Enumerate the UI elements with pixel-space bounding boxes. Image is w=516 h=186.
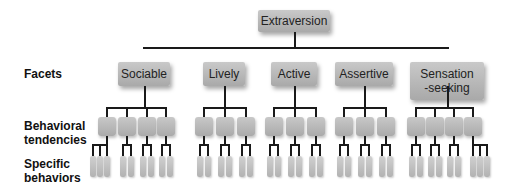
facet-node-assertive: Assertive bbox=[335, 62, 393, 86]
specific-behavior-node bbox=[484, 156, 490, 177]
facet-node-active: Active bbox=[271, 62, 317, 86]
connector-line bbox=[142, 144, 144, 156]
specific-behavior-node bbox=[247, 156, 253, 177]
connector-line bbox=[430, 144, 432, 156]
connector-line bbox=[144, 86, 146, 108]
connector-line bbox=[319, 144, 321, 156]
connector-line bbox=[415, 107, 474, 109]
specific-behavior-node bbox=[97, 156, 103, 177]
specific-behavior-node bbox=[167, 156, 173, 177]
connector-line bbox=[228, 144, 230, 156]
specific-behavior-node bbox=[226, 156, 232, 177]
connector-line bbox=[169, 144, 171, 156]
behavioral-tendency-node bbox=[195, 117, 213, 136]
connector-line bbox=[277, 144, 279, 156]
behavioral-tendency-node bbox=[118, 117, 136, 136]
connector-line bbox=[486, 144, 488, 156]
connector-line bbox=[106, 107, 167, 109]
connector-line bbox=[241, 144, 243, 156]
connector-line bbox=[161, 144, 163, 156]
specific-behavior-node bbox=[428, 156, 434, 177]
row-label-line: Behavioral bbox=[24, 119, 87, 133]
row-label-specific-behaviors: Specific behaviors bbox=[24, 157, 81, 185]
connector-line bbox=[447, 86, 449, 108]
behavioral-tendency-node bbox=[426, 117, 444, 136]
specific-behavior-node bbox=[159, 156, 165, 177]
root-node-extraversion: Extraversion bbox=[258, 10, 330, 32]
behavioral-tendency-node bbox=[407, 117, 425, 136]
behavioral-tendency-node bbox=[377, 117, 395, 136]
behavioral-tendency-node bbox=[445, 117, 463, 136]
behavioral-tendency-node bbox=[265, 117, 283, 136]
connector-line bbox=[479, 144, 481, 156]
connector-line bbox=[364, 86, 366, 108]
specific-behavior-node bbox=[120, 156, 126, 177]
connector-line bbox=[122, 144, 124, 156]
connector-line bbox=[449, 144, 451, 156]
behavioral-tendency-node bbox=[356, 117, 374, 136]
row-label-facets: Facets bbox=[24, 67, 62, 81]
specific-behavior-node bbox=[409, 156, 415, 177]
specific-behavior-node bbox=[148, 156, 154, 177]
specific-behavior-node bbox=[358, 156, 364, 177]
specific-behavior-node bbox=[337, 156, 343, 177]
specific-behavior-node bbox=[417, 156, 423, 177]
connector-line bbox=[472, 144, 474, 156]
specific-behavior-node bbox=[345, 156, 351, 177]
specific-behavior-node bbox=[267, 156, 273, 177]
connector-line bbox=[199, 144, 201, 156]
facet-node-lively: Lively bbox=[203, 62, 245, 86]
extraversion-hierarchy-diagram: Facets Behavioral tendencies Specific be… bbox=[0, 0, 516, 186]
connector-line bbox=[438, 144, 440, 156]
specific-behavior-node bbox=[128, 156, 134, 177]
specific-behavior-node bbox=[140, 156, 146, 177]
specific-behavior-node bbox=[455, 156, 461, 177]
connector-line bbox=[249, 144, 251, 156]
connector-line bbox=[411, 144, 413, 156]
behavioral-tendency-node bbox=[98, 117, 116, 136]
specific-behavior-node bbox=[104, 156, 110, 177]
facet-label-line: Sensation bbox=[420, 67, 473, 81]
specific-behavior-node bbox=[447, 156, 453, 177]
row-label-line: behaviors bbox=[24, 171, 81, 185]
connector-line bbox=[381, 144, 383, 156]
connector-line bbox=[269, 144, 271, 156]
connector-line bbox=[99, 144, 101, 156]
specific-behavior-node bbox=[205, 156, 211, 177]
row-label-line: Specific bbox=[24, 157, 81, 171]
specific-behavior-node bbox=[470, 156, 476, 177]
connector-line bbox=[220, 144, 222, 156]
row-label-line: tendencies bbox=[24, 133, 87, 147]
connector-line bbox=[92, 144, 94, 156]
connector-line bbox=[207, 144, 209, 156]
connector-line bbox=[457, 144, 459, 156]
connector-line bbox=[311, 144, 313, 156]
connector-line bbox=[298, 144, 300, 156]
specific-behavior-node bbox=[275, 156, 281, 177]
behavioral-tendency-node bbox=[138, 117, 156, 136]
behavioral-tendency-node bbox=[286, 117, 304, 136]
connector-line bbox=[339, 144, 341, 156]
connector-line bbox=[106, 144, 108, 156]
connector-line bbox=[360, 144, 362, 156]
behavioral-tendency-node bbox=[157, 117, 175, 136]
connector-line bbox=[150, 144, 152, 156]
specific-behavior-node bbox=[288, 156, 294, 177]
specific-behavior-node bbox=[477, 156, 483, 177]
specific-behavior-node bbox=[436, 156, 442, 177]
behavioral-tendency-node bbox=[307, 117, 325, 136]
specific-behavior-node bbox=[366, 156, 372, 177]
facet-node-sociable: Sociable bbox=[118, 62, 170, 86]
behavioral-tendency-node bbox=[335, 117, 353, 136]
specific-behavior-node bbox=[387, 156, 393, 177]
connector-line bbox=[294, 86, 296, 108]
specific-behavior-node bbox=[296, 156, 302, 177]
behavioral-tendency-node bbox=[464, 117, 482, 136]
connector-line bbox=[347, 144, 349, 156]
connector-line bbox=[130, 144, 132, 156]
specific-behavior-node bbox=[317, 156, 323, 177]
behavioral-tendency-node bbox=[216, 117, 234, 136]
connector-line bbox=[389, 144, 391, 156]
specific-behavior-node bbox=[218, 156, 224, 177]
specific-behavior-node bbox=[239, 156, 245, 177]
